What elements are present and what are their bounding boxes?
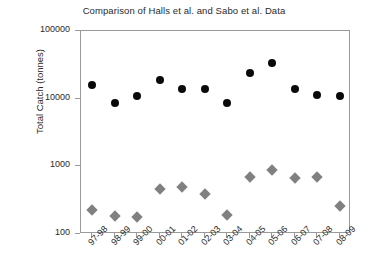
chart-title: Comparison of Halls et al. and Sabo et a… xyxy=(0,5,368,16)
data-point-circle xyxy=(336,92,344,100)
y-axis-tick-label: 10000 xyxy=(45,92,70,102)
data-point-diamond xyxy=(87,204,98,215)
data-point-circle xyxy=(88,81,96,89)
chart-container: Comparison of Halls et al. and Sabo et a… xyxy=(0,0,368,276)
y-axis-tick-label: 100 xyxy=(55,227,70,237)
data-point-diamond xyxy=(222,209,233,220)
data-point-circle xyxy=(178,85,186,93)
plot-area xyxy=(80,30,350,233)
data-point-circle xyxy=(111,99,119,107)
data-point-diamond xyxy=(199,188,210,199)
data-point-diamond xyxy=(289,172,300,183)
data-point-diamond xyxy=(132,211,143,222)
data-point-diamond xyxy=(334,200,345,211)
data-point-circle xyxy=(268,59,276,67)
y-axis-tick-label: 1000 xyxy=(50,159,70,169)
data-point-diamond xyxy=(244,171,255,182)
data-point-circle xyxy=(201,85,209,93)
data-point-circle xyxy=(156,76,164,84)
y-axis-label: Total Catch (tonnes) xyxy=(34,17,45,167)
data-point-diamond xyxy=(154,183,165,194)
y-axis-tick-mark xyxy=(75,233,80,234)
data-point-diamond xyxy=(177,182,188,193)
data-point-circle xyxy=(291,85,299,93)
data-point-diamond xyxy=(312,171,323,182)
y-axis-tick-label: 100000 xyxy=(40,24,70,34)
data-point-circle xyxy=(133,92,141,100)
data-point-circle xyxy=(223,99,231,107)
data-point-diamond xyxy=(109,210,120,221)
data-point-diamond xyxy=(267,164,278,175)
data-point-circle xyxy=(313,91,321,99)
data-point-circle xyxy=(246,69,254,77)
